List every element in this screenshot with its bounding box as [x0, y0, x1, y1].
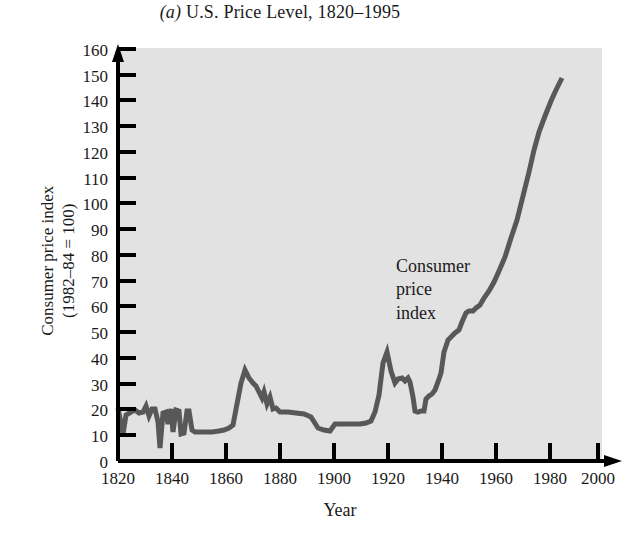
y-tick-label-130: 130: [56, 119, 108, 136]
y-tick-label-160: 160: [56, 42, 108, 59]
x-axis-title: Year: [110, 500, 570, 521]
y-tick-label-100: 100: [56, 196, 108, 213]
y-tick-label-30: 30: [56, 377, 108, 394]
figure-container: (a) U.S. Price Level, 1820–1995 Consumer…: [0, 0, 627, 537]
y-tick-label-110: 110: [56, 171, 108, 188]
y-tick-label-10: 10: [56, 428, 108, 445]
y-tick-label-80: 80: [56, 248, 108, 265]
y-tick-label-140: 140: [56, 93, 108, 110]
y-tick-label-70: 70: [56, 274, 108, 291]
x-tick-label-2000: 2000: [563, 470, 627, 487]
y-tick-label-90: 90: [56, 222, 108, 239]
series-annotation-line2: price: [396, 278, 470, 301]
y-tick-label-150: 150: [56, 68, 108, 85]
cpi-line: [118, 78, 562, 448]
series-annotation-line1: Consumer: [396, 255, 470, 278]
x-axis-arrowhead: [604, 455, 622, 467]
y-tick-label-120: 120: [56, 145, 108, 162]
y-axis-arrowhead: [112, 44, 124, 62]
series-annotation-line3: index: [396, 302, 470, 325]
y-tick-marks: [118, 49, 136, 461]
y-tick-label-20: 20: [56, 402, 108, 419]
y-tick-label-40: 40: [56, 351, 108, 368]
series-annotation: Consumer price index: [396, 255, 470, 325]
y-tick-label-60: 60: [56, 299, 108, 316]
x-tick-marks: [118, 443, 598, 461]
y-tick-label-50: 50: [56, 325, 108, 342]
